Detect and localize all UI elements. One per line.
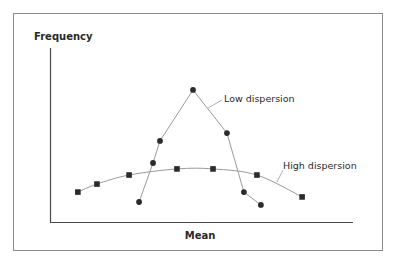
square-marker [210,166,216,172]
circle-marker [241,189,247,195]
high-dispersion-leader [277,170,283,182]
y-axis-label: Frequency [34,31,93,42]
low-dispersion-leader [208,100,222,108]
square-marker [254,172,260,178]
circle-marker [258,202,264,208]
chart: Frequency Mean Low dispersion High dispe… [0,0,396,261]
series-layer [75,87,305,208]
circle-marker [190,87,196,93]
circle-marker [150,160,156,166]
low-dispersion-series [136,87,264,208]
square-marker [126,172,132,178]
chart-frame [14,14,383,251]
circle-marker [157,138,163,144]
circle-marker [136,199,142,205]
low-dispersion-label: Low dispersion [224,93,295,104]
x-axis-label: Mean [185,230,216,241]
series-line [139,90,261,205]
series-line [78,168,302,197]
circle-marker [224,130,230,136]
high-dispersion-label: High dispersion [283,160,357,171]
square-marker [299,194,305,200]
square-marker [94,181,100,187]
square-marker [75,189,81,195]
square-marker [174,166,180,172]
high-dispersion-series [75,166,305,200]
